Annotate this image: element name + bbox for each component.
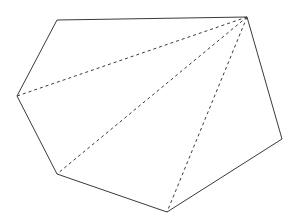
- diagonal-b-to-e: [57, 17, 247, 174]
- diagonal-b-to-f: [17, 17, 247, 96]
- diagram-canvas: [0, 0, 298, 223]
- hexagon-figure: [0, 0, 298, 223]
- diagonal-b-to-d: [167, 17, 247, 212]
- hexagon-outline: [17, 17, 282, 212]
